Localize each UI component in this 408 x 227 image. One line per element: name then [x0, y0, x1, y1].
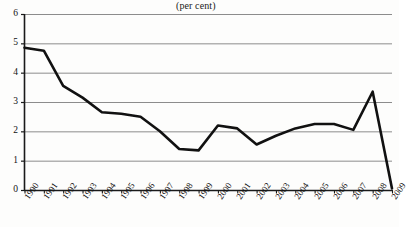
y-axis-tick-label: 5 — [2, 38, 18, 48]
y-axis-tick-label: 0 — [2, 185, 18, 195]
y-axis-tick-label: 1 — [2, 156, 18, 166]
y-axis-tick-label: 2 — [2, 126, 18, 136]
y-axis-tick-label: 3 — [2, 97, 18, 107]
y-axis-tick-label: 6 — [2, 9, 18, 19]
unit-label: (per cent) — [176, 0, 216, 11]
data-series-line — [25, 48, 393, 189]
y-axis-tick-label: 4 — [2, 68, 18, 78]
